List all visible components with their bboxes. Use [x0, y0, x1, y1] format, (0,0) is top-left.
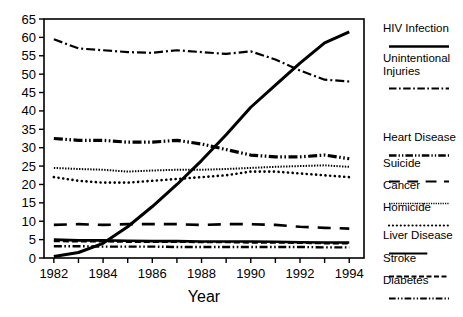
x-tick-label: 1994	[335, 266, 364, 281]
y-tick-label: 45	[22, 85, 36, 100]
y-tick-label: 30	[22, 140, 36, 155]
y-tick-label: 20	[22, 177, 36, 192]
x-axis-title: Year	[188, 288, 221, 305]
legend-item-label: Cancer	[383, 179, 463, 192]
line-chart-figure: 0510152025303540455055606519821984198619…	[0, 0, 380, 317]
legend-item-label: Stroke	[383, 252, 463, 265]
chart-legend: HIV InfectionUnintentional InjuriesHeart…	[383, 0, 463, 317]
y-tick-label: 15	[22, 195, 36, 210]
legend-swatch	[383, 223, 455, 228]
x-tick-label: 1986	[138, 266, 167, 281]
x-tick-label: 1984	[89, 266, 118, 281]
legend-item-label: Heart Disease	[383, 131, 463, 144]
x-tick-label: 1992	[286, 266, 315, 281]
legend-item-label: Homicide	[383, 201, 463, 214]
legend-swatch	[383, 296, 455, 301]
y-tick-label: 25	[22, 159, 36, 174]
x-tick-label: 1988	[187, 266, 216, 281]
legend-swatch	[383, 86, 455, 91]
x-tick-label: 1982	[39, 266, 68, 281]
y-tick-label: 60	[22, 30, 36, 45]
y-tick-label: 55	[22, 48, 36, 63]
series-line	[54, 246, 349, 247]
legend-item-label: HIV Infection	[383, 22, 463, 35]
y-tick-label: 10	[22, 214, 36, 229]
series-line	[54, 172, 349, 183]
legend-item[interactable]: Unintentional Injuries	[383, 52, 463, 95]
legend-swatch	[383, 44, 455, 49]
series-line	[54, 224, 349, 228]
legend-item[interactable]: Diabetes	[383, 274, 463, 305]
y-tick-label: 50	[22, 67, 36, 82]
series-line	[54, 32, 349, 257]
x-tick-label: 1990	[236, 266, 265, 281]
y-tick-label: 5	[29, 232, 36, 247]
legend-item-label: Suicide	[383, 157, 463, 170]
plot-frame	[44, 19, 364, 258]
legend-item[interactable]: Homicide	[383, 201, 463, 232]
legend-item-label: Unintentional Injuries	[383, 52, 463, 77]
series-line	[54, 139, 349, 159]
plot-area-container: 0510152025303540455055606519821984198619…	[0, 0, 380, 317]
y-tick-label: 35	[22, 122, 36, 137]
y-tick-label: 40	[22, 103, 36, 118]
series-line	[54, 165, 349, 171]
y-tick-label: 0	[29, 251, 36, 266]
y-tick-label: 65	[22, 12, 36, 27]
chart-screenshot: 0510152025303540455055606519821984198619…	[0, 0, 463, 317]
legend-item-label: Diabetes	[383, 274, 463, 287]
legend-item[interactable]: HIV Infection	[383, 22, 463, 53]
legend-item-label: Liver Disease	[383, 229, 463, 242]
